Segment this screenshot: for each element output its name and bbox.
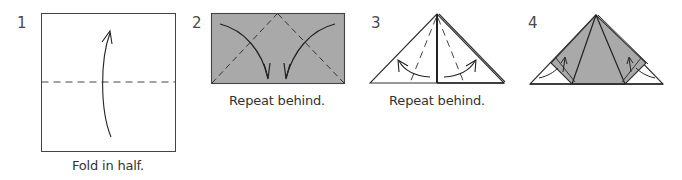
step-2-figure — [212, 14, 345, 84]
step-number-3: 3 — [371, 16, 381, 31]
step-2-caption: Repeat behind. — [229, 94, 325, 107]
colored-center-layer — [551, 15, 646, 84]
step-number-2: 2 — [192, 16, 202, 31]
paper-rectangle — [212, 14, 345, 84]
diagram-canvas — [0, 0, 682, 180]
step-3-figure — [370, 14, 505, 83]
step-1-figure — [42, 14, 176, 152]
step-4-figure — [530, 15, 663, 84]
step-3-caption: Repeat behind. — [389, 94, 485, 107]
step-number-4: 4 — [528, 16, 538, 31]
origami-diagram: 1 2 3 4 Fold in half. Repeat behind. Rep… — [0, 0, 682, 180]
step-1-caption: Fold in half. — [72, 159, 144, 172]
step-number-1: 1 — [17, 16, 27, 31]
